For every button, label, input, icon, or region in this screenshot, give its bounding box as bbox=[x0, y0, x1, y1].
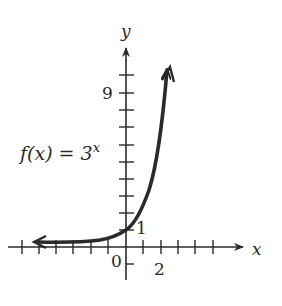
tick-label-9: 9 bbox=[102, 83, 113, 103]
function-label: f(x) = 3x bbox=[18, 140, 101, 164]
tick-label-0: 0 bbox=[111, 251, 122, 271]
tick-label-2: 2 bbox=[154, 259, 165, 279]
tick-label-1: 1 bbox=[136, 218, 147, 238]
exponential-graph: y x 9 1 0 2 f(x) = 3x bbox=[0, 0, 282, 306]
y-axis-label: y bbox=[120, 21, 131, 41]
x-axis-label: x bbox=[252, 239, 262, 259]
